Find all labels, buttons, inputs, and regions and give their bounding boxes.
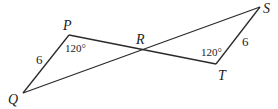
- angle-label-t: 120°: [201, 46, 222, 58]
- point-label-q: Q: [8, 92, 18, 107]
- point-label-p: P: [62, 18, 72, 33]
- side-label-st: 6: [242, 34, 249, 49]
- side-label-pq: 6: [36, 52, 43, 67]
- geometry-diagram: P Q R S T 6 6 120° 120°: [0, 0, 278, 109]
- angle-label-p: 120°: [65, 42, 86, 54]
- point-label-r: R: [135, 32, 145, 47]
- point-label-s: S: [263, 1, 270, 16]
- point-label-t: T: [218, 68, 227, 83]
